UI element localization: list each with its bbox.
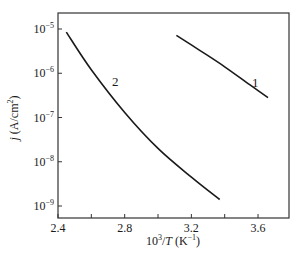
x-tick-label: 3.6 xyxy=(251,221,266,235)
x-axis-title: 103/T (K−1) xyxy=(146,233,200,248)
y-axis-title: j (A/cm2) xyxy=(6,96,21,143)
series-2-line xyxy=(66,32,219,199)
y-tick-label: 10−6 xyxy=(33,65,54,80)
chart: 2.42.83.23.6 10−910−810−710−610−5 1 2 10… xyxy=(0,0,305,258)
x-axis-ticks: 2.42.83.23.6 xyxy=(51,214,266,235)
x-tick-label: 2.4 xyxy=(51,221,66,235)
series-2-label: 2 xyxy=(112,74,119,89)
x-tick-label: 2.8 xyxy=(117,221,132,235)
plot-frame xyxy=(58,13,289,218)
series-1-label: 1 xyxy=(252,75,259,90)
y-tick-label: 10−9 xyxy=(33,198,54,213)
y-tick-label: 10−5 xyxy=(33,21,54,36)
y-tick-label: 10−8 xyxy=(33,154,54,169)
y-tick-label: 10−7 xyxy=(33,110,54,125)
